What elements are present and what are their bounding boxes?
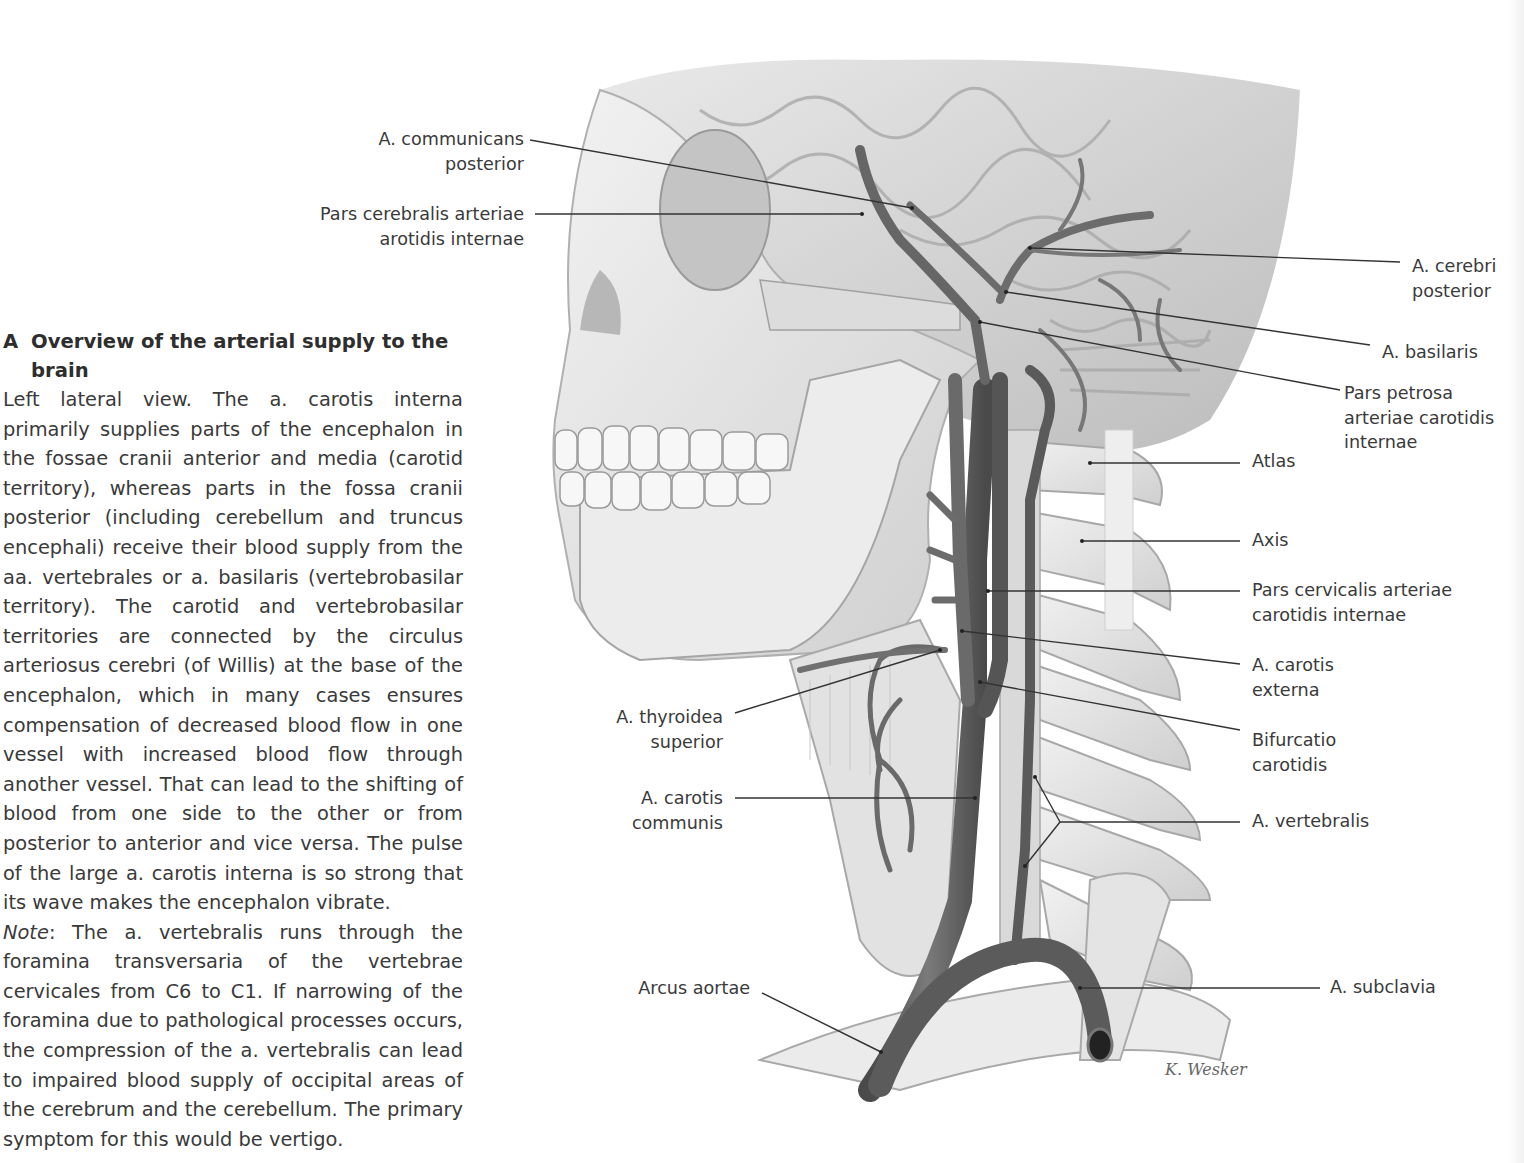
label-pars-cervicalis: Pars cervicalis arteriae carotidis inter…: [1252, 578, 1452, 627]
label-line: Axis: [1252, 528, 1289, 553]
label-line: arteriae carotidis: [1344, 406, 1494, 431]
label-line: A. subclavia: [1330, 975, 1436, 1000]
label-atlas: Atlas: [1252, 449, 1295, 474]
clavicle: [760, 980, 1230, 1090]
label-a-communicans-posterior: A. communicans posterior: [378, 127, 524, 176]
orbit: [660, 130, 770, 290]
spinal-column-shadow: [1105, 430, 1133, 630]
note-label: Note: [3, 921, 49, 944]
label-line: communis: [632, 811, 723, 836]
label-axis: Axis: [1252, 528, 1289, 553]
label-line: A. carotis: [1252, 653, 1334, 678]
caption-note: Note: The a. vertebralis runs through th…: [3, 918, 463, 1155]
label-line: A. basilaris: [1382, 340, 1478, 365]
label-bifurcatio-carotidis: Bifurcatio carotidis: [1252, 728, 1336, 777]
label-a-carotis-externa: A. carotis externa: [1252, 653, 1334, 702]
label-line: A. vertebralis: [1252, 809, 1369, 834]
label-line: Pars cervicalis arteriae: [1252, 578, 1452, 603]
figure-caption: A Overview of the arterial supply to the…: [3, 327, 463, 1154]
note-text: : The a. vertebralis runs through the fo…: [3, 921, 463, 1151]
anatomical-illustration: K. Wesker: [530, 40, 1310, 1120]
artist-signature: K. Wesker: [1164, 1060, 1248, 1079]
label-line: Atlas: [1252, 449, 1295, 474]
label-a-carotis-communis: A. carotis communis: [632, 786, 723, 835]
label-line: Arcus aortae: [638, 976, 750, 1001]
label-line: superior: [616, 730, 723, 755]
label-a-cerebri-posterior: A. cerebri posterior: [1412, 254, 1496, 303]
caption-title-text: Overview of the arterial supply to the b…: [31, 327, 463, 385]
label-line: externa: [1252, 678, 1334, 703]
artery-carotis-externa: [955, 380, 968, 700]
caption-body: Left lateral view. The a. carotis intern…: [3, 385, 463, 1154]
page-edge-shadow: [1508, 0, 1524, 1163]
label-pars-cerebralis: Pars cerebralis arteriae arotidis intern…: [320, 202, 524, 251]
label-line: A. cerebri: [1412, 254, 1496, 279]
caption-paragraph: Left lateral view. The a. carotis intern…: [3, 385, 463, 918]
caption-title: A Overview of the arterial supply to the…: [3, 327, 463, 385]
label-line: Pars cerebralis arteriae: [320, 202, 524, 227]
label-line: posterior: [378, 152, 524, 177]
label-a-vertebralis: A. vertebralis: [1252, 809, 1369, 834]
skull-neck-arteries-drawing: K. Wesker: [530, 40, 1310, 1120]
label-line: internae: [1344, 430, 1494, 455]
label-a-basilaris: A. basilaris: [1382, 340, 1478, 365]
label-line: carotidis: [1252, 753, 1336, 778]
label-arcus-aortae: Arcus aortae: [638, 976, 750, 1001]
label-line: arotidis internae: [320, 227, 524, 252]
label-line: A. carotis: [632, 786, 723, 811]
caption-letter: A: [3, 327, 31, 385]
subclavia-lumen: [1088, 1029, 1112, 1061]
label-line: Bifurcatio: [1252, 728, 1336, 753]
label-line: A. communicans: [378, 127, 524, 152]
label-line: Pars petrosa: [1344, 381, 1494, 406]
label-line: carotidis internae: [1252, 603, 1452, 628]
label-a-subclavia: A. subclavia: [1330, 975, 1436, 1000]
label-pars-petrosa: Pars petrosa arteriae carotidis internae: [1344, 381, 1494, 455]
label-line: posterior: [1412, 279, 1496, 304]
label-line: A. thyroidea: [616, 705, 723, 730]
label-a-thyroidea-superior: A. thyroidea superior: [616, 705, 723, 754]
